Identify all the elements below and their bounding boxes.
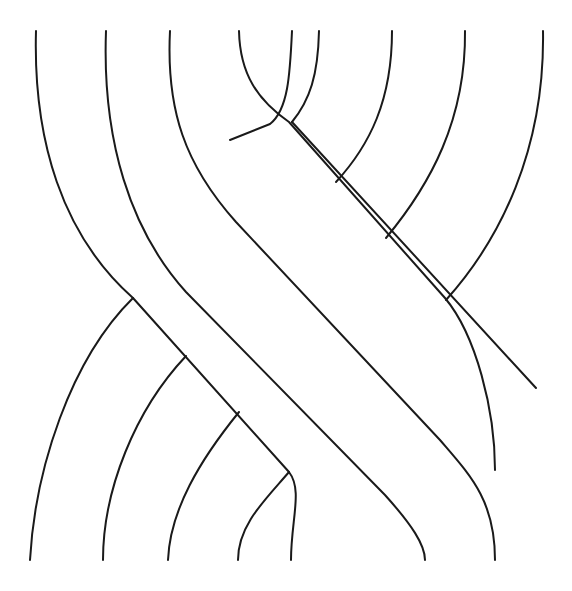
braid-strand (446, 31, 543, 300)
braid-svg (0, 0, 572, 591)
braid-strand (36, 31, 296, 560)
braid-strand (238, 472, 289, 560)
braid-strand (168, 412, 239, 560)
braid-diagram (0, 0, 572, 591)
braid-strand (336, 31, 392, 182)
braid-strand (106, 31, 425, 560)
braid-strand (169, 31, 495, 560)
braid-strand (30, 298, 133, 560)
braid-strand (239, 31, 495, 470)
braid-strand (292, 122, 536, 388)
braid-strand (386, 31, 465, 238)
braid-strand (292, 31, 319, 122)
